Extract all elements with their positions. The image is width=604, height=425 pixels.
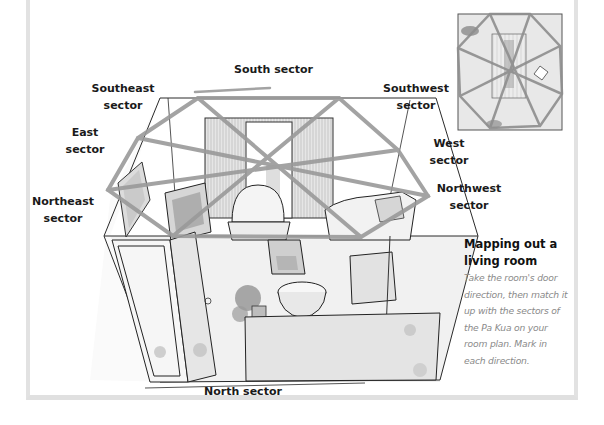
- south-sector-label: South sector: [234, 61, 313, 78]
- caption-body-line: the Pa Kua on your: [464, 320, 584, 337]
- west-sector-label: West sector: [428, 135, 470, 169]
- northwest-sector-label-line2: sector: [436, 197, 502, 214]
- east-sector-label: East sector: [64, 124, 106, 158]
- northwest-sector-label-line1: Northwest: [436, 180, 502, 197]
- southwest-sector-label: Southwest sector: [382, 80, 450, 114]
- northeast-sector-label-line2: sector: [30, 210, 96, 227]
- southeast-sector-label-line1: Southeast: [88, 80, 158, 97]
- northeast-sector-label-line1: Northeast: [30, 193, 96, 210]
- caption-body-line: Take the room's door: [464, 270, 584, 287]
- caption-title-line1: Mapping out a: [464, 236, 584, 253]
- northwest-sector-label: Northwest sector: [436, 180, 502, 214]
- southeast-sector-label: Southeast sector: [88, 80, 158, 114]
- east-sector-label-line2: sector: [64, 141, 106, 158]
- caption-body-line: each direction.: [464, 353, 584, 370]
- east-sector-label-line1: East: [64, 124, 106, 141]
- front-counter: [245, 313, 440, 381]
- north-sector-label: North sector: [204, 383, 282, 400]
- west-sector-label-line1: West: [428, 135, 470, 152]
- southeast-sector-label-line2: sector: [88, 97, 158, 114]
- coffee-table: [268, 240, 305, 274]
- caption-title-line2: living room: [464, 253, 584, 270]
- caption-body-line: up with the sectors of: [464, 303, 584, 320]
- southwest-sector-label-line2: sector: [382, 97, 450, 114]
- caption-body-line: room plan. Mark in: [464, 336, 584, 353]
- west-sector-label-line2: sector: [428, 152, 470, 169]
- caption-body-line: direction, then match it: [464, 287, 584, 304]
- southwest-sector-label-line1: Southwest: [382, 80, 450, 97]
- floor-plan-inset: [458, 14, 562, 130]
- northeast-sector-label: Northeast sector: [30, 193, 96, 227]
- caption: Mapping out a living room Take the room'…: [464, 236, 584, 370]
